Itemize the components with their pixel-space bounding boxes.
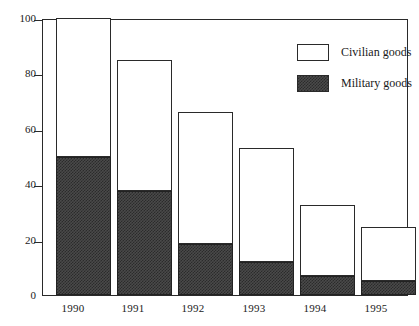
bar-1992[interactable] [178,112,233,295]
bar-1990-military-segment[interactable] [56,157,111,296]
bar-1991-military-segment[interactable] [117,191,172,295]
legend-label-civilian: Civilian goods [341,45,411,60]
y-tick-20 [34,242,43,243]
bar-1991[interactable] [117,60,172,296]
bar-1995-military-segment[interactable] [361,281,416,295]
bar-1991-civilian-segment[interactable] [117,60,172,192]
y-axis-label-40: 40 [0,179,36,190]
y-axis-label-80: 80 [0,68,36,79]
legend-label-military: Military goods [341,76,412,91]
y-axis-label-0: 0 [0,290,36,301]
bar-1995[interactable] [361,227,416,295]
bar-1993-civilian-segment[interactable] [239,148,294,262]
bar-1992-civilian-segment[interactable] [178,112,233,244]
bar-1994[interactable] [300,205,355,295]
bar-1995-civilian-segment[interactable] [361,227,416,281]
x-axis-label-1992: 1992 [163,302,223,314]
x-axis-label-1990: 1990 [43,302,103,314]
legend-swatch-military-icon [297,75,329,92]
bar-1992-military-segment[interactable] [178,244,233,295]
bar-1990[interactable] [56,18,111,295]
legend-swatch-civilian-icon [297,44,329,61]
y-axis-label-20: 20 [0,235,36,246]
bar-1993-military-segment[interactable] [239,262,294,295]
x-axis-label-1995: 1995 [346,302,406,314]
y-tick-100 [34,20,43,21]
bar-1994-military-segment[interactable] [300,276,355,295]
bar-1993[interactable] [239,148,294,295]
y-tick-60 [34,131,43,132]
plot-area: Civilian goods Military goods [42,19,408,296]
stacked-bar-chart: 100 80 60 40 20 0 1990 1991 1992 1993 19… [0,0,419,326]
y-axis-label-60: 60 [0,124,36,135]
x-axis-label-1994: 1994 [285,302,345,314]
x-axis-label-1991: 1991 [103,302,163,314]
y-tick-40 [34,186,43,187]
x-axis-label-1993: 1993 [224,302,284,314]
bar-1990-civilian-segment[interactable] [56,18,111,157]
y-axis-label-100: 100 [0,13,36,24]
y-tick-80 [34,75,43,76]
bar-1994-civilian-segment[interactable] [300,205,355,276]
